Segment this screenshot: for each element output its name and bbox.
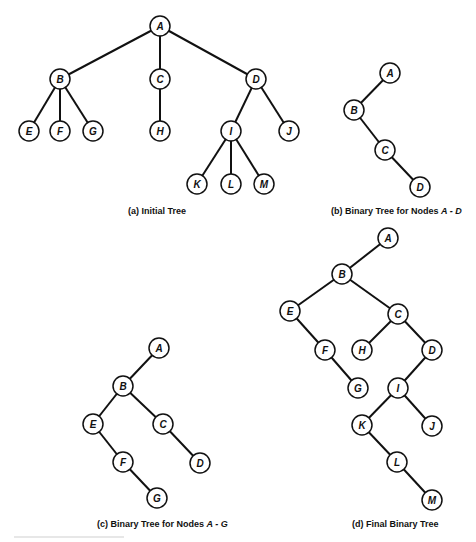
tree-node-L: L <box>221 174 241 194</box>
tree-node-B: B <box>344 100 364 120</box>
node-label: I <box>397 383 400 394</box>
tree-node-J: J <box>422 416 442 436</box>
node-label: C <box>156 74 164 85</box>
edge-A-B <box>60 26 160 79</box>
caption-text: (b) Binary Tree for Nodes <box>331 206 441 216</box>
node-label: F <box>120 457 127 468</box>
tree-node-C: C <box>375 140 395 160</box>
node-label: A <box>385 68 393 79</box>
node-label: B <box>338 269 345 280</box>
tree-node-H: H <box>150 121 170 141</box>
tree-node-M: M <box>422 490 442 510</box>
node-label: D <box>252 74 259 85</box>
tree-node-A: A <box>149 338 169 358</box>
tree-node-A: A <box>380 63 400 83</box>
tree-node-K: K <box>352 415 372 435</box>
tree-node-C: C <box>150 69 170 89</box>
tree-node-C: C <box>153 414 173 434</box>
tree-node-M: M <box>254 174 274 194</box>
node-label: A <box>154 343 162 354</box>
node-label: D <box>428 345 435 356</box>
caption-text: (a) Initial Tree <box>128 206 186 216</box>
node-label: E <box>26 126 33 137</box>
tree-node-B: B <box>50 69 70 89</box>
tree-node-A: A <box>150 16 170 36</box>
tree-diagram-canvas: ABCDEFGHIJKLM ABCD ABECFDG ABECFHDGIKJLM <box>0 0 476 542</box>
caption-text: (c) Binary Tree for Nodes <box>97 519 207 529</box>
node-label: A <box>383 233 391 244</box>
node-label: E <box>287 306 294 317</box>
tree-node-E: E <box>83 414 103 434</box>
tree-node-F: F <box>50 121 70 141</box>
tree-node-E: E <box>280 301 300 321</box>
tree-node-A: A <box>378 228 398 248</box>
caption-var: A - D <box>441 206 462 216</box>
caption-binary-tree-a-g: (c) Binary Tree for Nodes A - G <box>97 519 228 529</box>
tree-node-B: B <box>113 376 133 396</box>
panel-binary-tree-a-g: ABECFDG <box>83 338 210 508</box>
node-label: J <box>429 421 435 432</box>
caption-initial-tree: (a) Initial Tree <box>128 206 186 216</box>
tree-node-G: G <box>348 378 368 398</box>
tree-node-J: J <box>279 121 299 141</box>
node-label: B <box>119 381 126 392</box>
tree-node-G: G <box>147 488 167 508</box>
node-label: K <box>193 179 201 190</box>
node-label: G <box>354 383 362 394</box>
node-label: A <box>155 21 163 32</box>
caption-final-binary-tree: (d) Final Binary Tree <box>352 519 439 529</box>
tree-node-B: B <box>332 264 352 284</box>
node-label: I <box>230 126 233 137</box>
panel-final-binary-tree: ABECFHDGIKJLM <box>280 228 442 510</box>
tree-node-F: F <box>315 340 335 360</box>
node-label: L <box>394 457 400 468</box>
tree-node-G: G <box>83 121 103 141</box>
node-label: M <box>428 495 437 506</box>
tree-node-E: E <box>19 121 39 141</box>
caption-text: (d) Final Binary Tree <box>352 519 439 529</box>
tree-node-K: K <box>187 174 207 194</box>
node-label: D <box>196 458 203 469</box>
tree-node-D: D <box>246 69 266 89</box>
node-label: B <box>350 105 357 116</box>
tree-node-F: F <box>113 452 133 472</box>
tree-node-I: I <box>221 121 241 141</box>
tree-node-D: D <box>190 453 210 473</box>
tree-node-D: D <box>410 177 430 197</box>
node-label: C <box>159 419 167 430</box>
node-label: K <box>358 420 366 431</box>
tree-node-I: I <box>388 378 408 398</box>
tree-node-H: H <box>352 340 372 360</box>
truncated-figure-caption <box>14 536 124 542</box>
caption-var: A - G <box>207 519 228 529</box>
node-label: L <box>228 179 234 190</box>
panel-initial-tree: ABCDEFGHIJKLM <box>19 16 299 194</box>
node-label: B <box>56 74 63 85</box>
caption-binary-tree-a-d: (b) Binary Tree for Nodes A - D <box>331 206 462 216</box>
node-label: M <box>260 179 269 190</box>
tree-node-C: C <box>388 304 408 324</box>
node-label: E <box>90 419 97 430</box>
node-label: C <box>381 145 389 156</box>
node-label: H <box>156 126 164 137</box>
node-label: G <box>153 493 161 504</box>
panel-binary-tree-a-d: ABCD <box>344 63 430 197</box>
node-label: J <box>286 126 292 137</box>
edge-A-D <box>160 26 256 79</box>
node-label: F <box>57 126 64 137</box>
node-label: C <box>394 309 402 320</box>
tree-node-D: D <box>422 340 442 360</box>
node-label: D <box>416 182 423 193</box>
tree-node-L: L <box>387 452 407 472</box>
node-label: H <box>358 345 366 356</box>
node-label: G <box>89 126 97 137</box>
node-label: F <box>322 345 329 356</box>
